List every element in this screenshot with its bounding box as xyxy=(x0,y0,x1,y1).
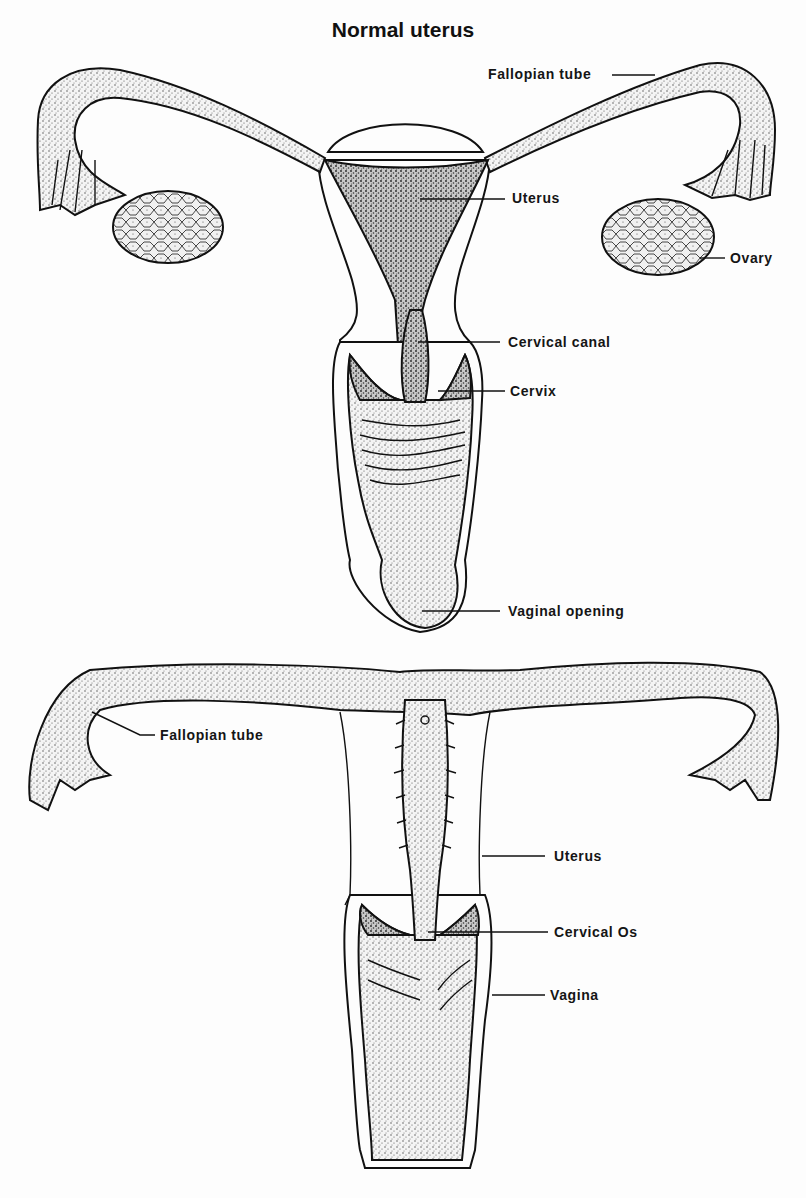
top-figure xyxy=(37,63,775,632)
vaginal-canal xyxy=(359,905,477,1160)
label-cervix: Cervix xyxy=(510,383,556,399)
uterus-left-wall xyxy=(340,712,351,905)
cervical-canal-shape xyxy=(402,310,429,402)
label-ovary: Ovary xyxy=(730,250,773,266)
label-cervical-os: Cervical Os xyxy=(554,924,638,940)
right-fallopian-tube xyxy=(485,63,775,200)
bottom-figure xyxy=(29,663,778,1168)
uterine-fundus xyxy=(328,124,483,152)
left-ovary xyxy=(113,191,223,263)
label-vagina: Vagina xyxy=(550,987,599,1003)
uterus-right-wall xyxy=(479,712,490,905)
label-cervical-canal: Cervical canal xyxy=(508,334,611,350)
label-uterus-bottom: Uterus xyxy=(554,848,602,864)
right-ovary xyxy=(602,199,714,275)
label-fallopian-tube-bottom: Fallopian tube xyxy=(160,727,263,743)
label-fallopian-tube-top: Fallopian tube xyxy=(488,66,591,82)
anatomy-illustration xyxy=(0,0,806,1198)
label-uterus-top: Uterus xyxy=(512,190,560,206)
label-vaginal-opening: Vaginal opening xyxy=(508,603,624,619)
leader-fallopian-tube xyxy=(92,712,155,735)
